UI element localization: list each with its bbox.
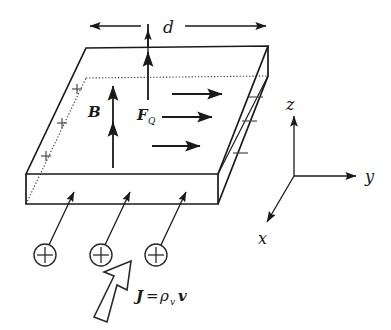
charge-carrier-2 <box>90 244 112 266</box>
axis-x-label: x <box>258 229 267 248</box>
equation-equals: = <box>146 287 159 305</box>
axis-y-label: y <box>364 167 375 186</box>
axis-x-arrow <box>267 176 294 222</box>
current-density-block-arrow <box>94 261 131 322</box>
force-subscript-label: Q <box>148 116 156 126</box>
charge-carrier-3 <box>145 244 167 266</box>
coordinate-axes: z y x <box>258 95 375 248</box>
slab-front-face <box>26 174 218 204</box>
magnetic-field-label: B <box>87 103 101 121</box>
block-arrow-shape <box>94 261 131 322</box>
current-density-equation: J = ρ v v <box>133 287 187 307</box>
equation-current-density: J <box>133 287 144 305</box>
figure-canvas: d B F Q <box>0 0 391 330</box>
charge-carrier-1 <box>34 244 56 266</box>
equation-velocity: v <box>178 287 187 305</box>
equation-charge-density-subscript: v <box>170 297 175 307</box>
width-dimension-label: d <box>163 17 174 37</box>
equation-charge-density: ρ <box>159 287 169 305</box>
axis-z-label: z <box>285 95 295 114</box>
hall-effect-diagram: d B F Q <box>0 0 391 330</box>
charge-carriers <box>34 244 167 266</box>
